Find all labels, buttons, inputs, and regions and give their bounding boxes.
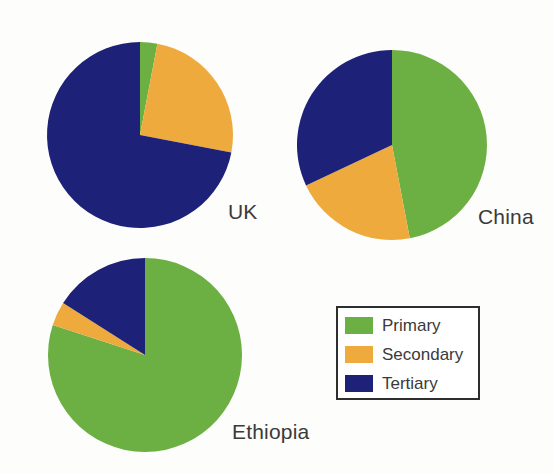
pie-chart-figure: UK China Ethiopia Primary Secondary Tert… — [0, 0, 553, 473]
pie-chart-uk — [44, 39, 236, 231]
legend-item-primary: Primary — [345, 314, 441, 336]
pie-slice-china-primary — [392, 50, 487, 238]
legend-label-primary: Primary — [382, 317, 441, 334]
legend-swatch-primary — [345, 317, 373, 334]
legend-label-secondary: Secondary — [382, 346, 463, 363]
pie-chart-china — [294, 47, 490, 243]
legend-item-tertiary: Tertiary — [345, 372, 438, 394]
legend-swatch-tertiary — [345, 375, 373, 392]
pie-label-uk: UK — [228, 201, 258, 222]
pie-label-ethiopia: Ethiopia — [232, 421, 310, 442]
legend-swatch-secondary — [345, 346, 373, 363]
chart-legend: Primary Secondary Tertiary — [336, 306, 480, 400]
legend-item-secondary: Secondary — [345, 343, 463, 365]
pie-chart-ethiopia — [45, 255, 245, 455]
pie-label-china: China — [478, 206, 534, 227]
legend-label-tertiary: Tertiary — [382, 375, 438, 392]
